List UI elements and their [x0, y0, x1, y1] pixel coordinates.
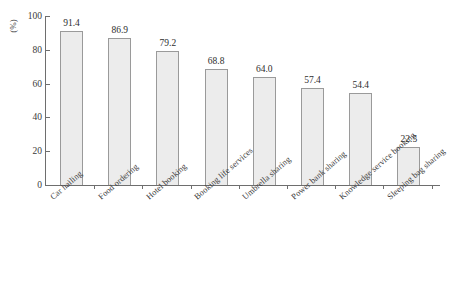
- y-axis-tick-label: 60: [2, 79, 42, 89]
- bar-value-label: 54.4: [340, 80, 381, 90]
- bar-chart: (%) 020406080100 91.486.979.268.864.057.…: [0, 0, 451, 284]
- y-axis-tick-label: 80: [2, 45, 42, 55]
- bar-value-label: 57.4: [292, 75, 333, 85]
- y-axis-tick-label: 100: [2, 11, 42, 21]
- x-axis-tick: [239, 185, 240, 189]
- bar: [108, 38, 131, 185]
- y-axis-tick-label: 0: [2, 180, 42, 190]
- y-axis-tick: [45, 50, 50, 51]
- y-axis-tick: [45, 117, 50, 118]
- bar-value-label: 86.9: [99, 25, 140, 35]
- y-axis-tick: [45, 16, 50, 17]
- x-axis-tick: [142, 185, 143, 189]
- x-axis-tick: [432, 185, 433, 189]
- y-axis-tick: [45, 151, 50, 152]
- y-axis-tick: [45, 185, 50, 186]
- x-axis-tick: [335, 185, 336, 189]
- bar-value-label: 68.8: [196, 56, 237, 66]
- y-axis-tick: [45, 84, 50, 85]
- y-axis-tick-label: 40: [2, 112, 42, 122]
- bar-value-label: 91.4: [51, 18, 92, 28]
- bar-value-label: 79.2: [147, 38, 188, 48]
- bar-value-label: 64.0: [244, 64, 285, 74]
- x-axis-tick: [191, 185, 192, 189]
- x-axis-tick: [94, 185, 95, 189]
- x-axis-tick: [287, 185, 288, 189]
- y-axis-tick-label: 20: [2, 146, 42, 156]
- x-axis-tick: [383, 185, 384, 189]
- bar: [60, 31, 83, 185]
- y-axis-line: [45, 16, 46, 186]
